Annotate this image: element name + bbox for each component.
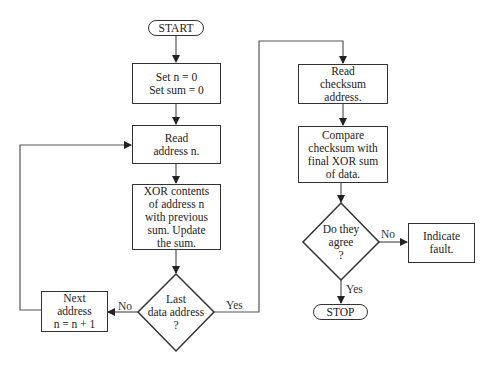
stop-terminal: STOP <box>313 304 368 320</box>
read-address-box: Read address n. <box>132 125 221 164</box>
start-label: START <box>159 22 194 35</box>
next-line-3: n = n + 1 <box>54 318 96 331</box>
xor-line-2: of address n <box>149 198 205 211</box>
decision-last-line-2: data address <box>148 306 205 319</box>
compare-line-2: checksum with <box>308 142 377 155</box>
decision-last-line-1: Last <box>166 293 186 306</box>
xor-line-5: the sum. <box>157 237 196 250</box>
edge-label-last-yes: Yes <box>226 299 243 311</box>
xor-box: XOR contents of address n with previous … <box>132 184 221 250</box>
xor-line-3: with previous <box>145 211 208 224</box>
decision-agree-line-3: ? <box>338 249 343 262</box>
decision-agree-line-2: agree <box>329 236 354 249</box>
decision-last-text: Last data address ? <box>138 291 214 333</box>
compare-line-4: of data. <box>326 168 360 181</box>
xor-line-4: sum. Update <box>147 224 205 237</box>
init-line-2: Set sum = 0 <box>149 84 204 97</box>
init-box: Set n = 0 Set sum = 0 <box>132 63 221 104</box>
indicate-line-2: fault. <box>430 243 454 256</box>
decision-agree-line-1: Do they <box>323 223 360 236</box>
start-terminal: START <box>148 20 204 36</box>
read-address-line-1: Read <box>165 132 189 145</box>
read-checksum-line-1: Read <box>331 65 355 78</box>
read-checksum-box: Read checksum address. <box>298 64 388 104</box>
read-address-line-2: address n. <box>154 145 200 158</box>
decision-last-line-3: ? <box>173 319 178 332</box>
indicate-fault-box: Indicate fault. <box>408 223 475 263</box>
next-address-box: Next address n = n + 1 <box>41 291 108 332</box>
edge-label-agree-no: No <box>381 228 395 240</box>
read-checksum-line-2: checksum <box>320 78 366 91</box>
edge-label-agree-yes: Yes <box>346 283 363 295</box>
read-checksum-line-3: address. <box>324 91 361 104</box>
indicate-line-1: Indicate <box>423 230 460 243</box>
init-line-1: Set n = 0 <box>156 71 197 84</box>
decision-agree-text: Do they agree ? <box>303 221 379 263</box>
stop-label: STOP <box>327 306 355 319</box>
next-line-1: Next <box>63 292 85 305</box>
edge-label-last-no: No <box>118 300 132 312</box>
compare-line-3: final XOR sum <box>308 155 378 168</box>
compare-line-1: Compare <box>322 129 364 142</box>
xor-line-1: XOR contents <box>144 185 209 198</box>
compare-box: Compare checksum with final XOR sum of d… <box>298 126 388 183</box>
next-line-2: address <box>57 305 92 318</box>
flowchart-canvas: START Set n = 0 Set sum = 0 Read address… <box>0 0 492 368</box>
